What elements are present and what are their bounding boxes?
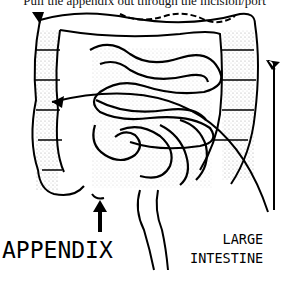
large-intestine-label-line2: INTESTINE [190,249,263,268]
appendix-label: APPENDIX [2,237,113,263]
large-intestine-label: LARGE INTESTINE [190,230,263,268]
large-intestine-label-line1: LARGE [190,230,263,249]
